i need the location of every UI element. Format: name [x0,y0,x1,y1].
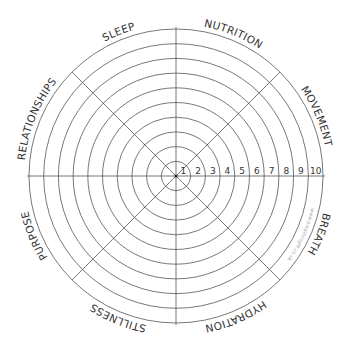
segment-label-sleep: SLEEP [100,20,136,44]
segment-label-relationships: RELATIONSHIPS [15,75,59,161]
scale-number: 6 [254,166,260,176]
scale-number: 2 [195,166,201,176]
scale-numbers: 12345678910 [180,166,321,176]
scale-number: 1 [180,166,186,176]
center-dot [174,174,177,177]
scale-number: 9 [298,166,304,176]
segment-label-purpose: PURPOSE [18,210,49,263]
segment-label-movement: MOVEMENT [299,83,335,147]
scale-number: 4 [225,166,231,176]
segment-label-hydration: HYDRATION [204,299,269,335]
wellness-wheel: 12345678910 SLEEPNUTRITIONMOVEMENTBREATH… [0,0,351,357]
scale-number: 3 [210,166,216,176]
scale-number: 10 [310,166,322,176]
scale-number: 5 [239,166,245,176]
scale-number: 7 [269,166,275,176]
scale-number: 8 [283,166,289,176]
